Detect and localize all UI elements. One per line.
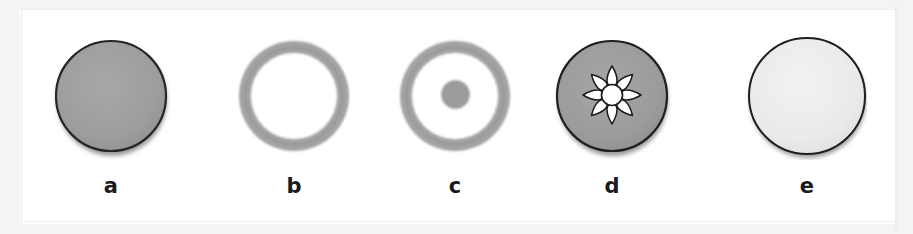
scan-margin-left bbox=[0, 0, 20, 234]
specimen-panel-d: d bbox=[537, 10, 687, 222]
specimen-row: a b bbox=[24, 10, 890, 222]
specimen-panel-c: c bbox=[380, 10, 530, 222]
page-edge-line-right bbox=[895, 4, 897, 230]
scan-margin-bottom bbox=[0, 224, 913, 234]
figure-page: a b bbox=[0, 0, 913, 234]
specimen-b-caption: b bbox=[219, 173, 369, 199]
specimen-panel-b: b bbox=[219, 10, 369, 222]
page-edge-line-left bbox=[21, 8, 22, 224]
specimen-c-image bbox=[395, 32, 515, 160]
specimen-a-image bbox=[51, 32, 171, 160]
specimen-a-caption: a bbox=[36, 173, 186, 199]
specimen-a-disc bbox=[56, 41, 166, 151]
specimen-b-image bbox=[234, 32, 354, 160]
specimen-panel-e: e bbox=[732, 10, 882, 222]
specimen-d-center-hole bbox=[602, 85, 623, 106]
specimen-d-image bbox=[552, 32, 672, 160]
specimen-d-caption: d bbox=[537, 173, 687, 199]
specimen-c-center-dot bbox=[441, 80, 470, 109]
specimen-e-image bbox=[747, 32, 867, 160]
specimen-b-ring-hole bbox=[251, 53, 337, 139]
specimen-c-caption: c bbox=[380, 173, 530, 199]
specimen-panel-a: a bbox=[36, 10, 186, 222]
specimen-e-disc bbox=[749, 38, 865, 154]
specimen-e-caption: e bbox=[732, 173, 882, 199]
scan-margin-top bbox=[0, 0, 913, 9]
scan-margin-right bbox=[897, 0, 913, 234]
